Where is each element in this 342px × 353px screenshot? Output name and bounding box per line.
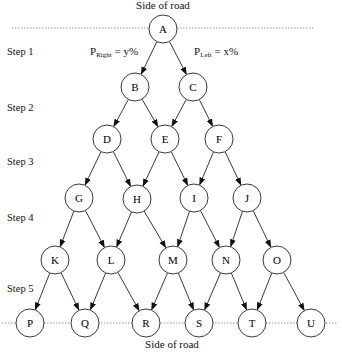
edge-M-R [152, 273, 168, 310]
node-label: L [108, 254, 115, 266]
edge-E-I [171, 152, 187, 185]
node-label: G [75, 192, 83, 204]
node-Q: Q [71, 309, 99, 337]
node-label: A [159, 23, 167, 35]
node-R: R [132, 309, 160, 337]
node-F: F [205, 125, 233, 153]
edge-H-L [117, 212, 132, 247]
node-K: K [41, 246, 69, 274]
node-label: T [249, 317, 256, 329]
node-label: E [162, 133, 169, 145]
bottom-road-label: Side of road [112, 338, 232, 350]
prob-right-value: = y% [114, 45, 138, 57]
edge-N-S [205, 273, 221, 310]
edge-F-J [225, 152, 241, 185]
node-label: F [216, 133, 222, 145]
step-label-4: Step 4 [7, 212, 34, 223]
node-label: U [307, 317, 315, 329]
prob-left-label: PLeft = x% [194, 45, 238, 59]
prob-left-subscript: Left [200, 51, 212, 59]
node-A: A [149, 15, 177, 43]
top-road-label: Side of road [103, 0, 223, 11]
prob-left-value: = x% [215, 45, 239, 57]
edge-H-M [144, 211, 166, 247]
node-label: P [27, 317, 33, 329]
node-E: E [151, 125, 179, 153]
node-label: D [103, 133, 111, 145]
node-label: Q [81, 317, 89, 329]
node-S: S [185, 309, 213, 337]
node-label: M [168, 254, 178, 266]
edge-G-L [85, 210, 104, 247]
edge-O-U [284, 272, 305, 310]
edge-K-Q [61, 273, 79, 310]
edge-O-T [257, 273, 272, 310]
diagram-canvas: ABCDEFGHIJKLMNOPQRSTU [0, 0, 342, 353]
node-L: L [97, 246, 125, 274]
edge-L-R [118, 272, 139, 310]
node-I: I [180, 184, 208, 212]
edge-I-N [200, 210, 219, 247]
edge-J-N [231, 211, 243, 246]
node-label: I [192, 192, 196, 204]
node-C: C [179, 73, 207, 101]
edge-B-D [114, 99, 128, 126]
edge-C-F [199, 100, 212, 127]
edge-M-S [178, 273, 193, 310]
edge-E-H [143, 152, 159, 186]
step-label-5: Step 5 [7, 283, 34, 294]
edge-K-P [35, 273, 50, 310]
node-label: S [196, 317, 202, 329]
edge-A-C [169, 41, 186, 74]
node-label: B [131, 81, 138, 93]
edge-F-I [200, 152, 214, 185]
edge-L-Q [91, 273, 106, 310]
node-label: H [133, 193, 141, 205]
node-label: O [273, 254, 281, 266]
nodes: ABCDEFGHIJKLMNOPQRSTU [16, 15, 325, 337]
node-B: B [121, 73, 149, 101]
prob-right-subscript: Right [96, 51, 112, 59]
edge-J-O [253, 211, 271, 247]
node-N: N [212, 246, 240, 274]
node-label: N [222, 254, 230, 266]
node-T: T [238, 309, 266, 337]
edge-G-K [60, 211, 74, 246]
step-label-2: Step 2 [7, 102, 34, 113]
step-label-3: Step 3 [7, 156, 34, 167]
node-label: K [51, 254, 59, 266]
step-label-1: Step 1 [7, 46, 34, 57]
node-M: M [159, 246, 187, 274]
node-H: H [123, 185, 151, 213]
edge-I-M [178, 211, 190, 246]
edge-D-H [113, 152, 130, 187]
node-D: D [93, 125, 121, 153]
node-label: J [245, 192, 250, 204]
prob-right-label: PRight = y% [90, 45, 138, 59]
edge-B-E [142, 99, 158, 126]
edge-A-B [141, 42, 157, 74]
node-label: R [142, 317, 150, 329]
node-J: J [233, 184, 261, 212]
node-U: U [297, 309, 325, 337]
node-O: O [263, 246, 291, 274]
node-G: G [65, 184, 93, 212]
node-label: C [189, 81, 196, 93]
edge-D-G [85, 152, 101, 185]
node-P: P [16, 309, 44, 337]
edge-N-T [231, 273, 246, 310]
random-walk-diagram: ABCDEFGHIJKLMNOPQRSTU Side of road Side … [0, 0, 342, 353]
edge-C-E [172, 99, 187, 126]
